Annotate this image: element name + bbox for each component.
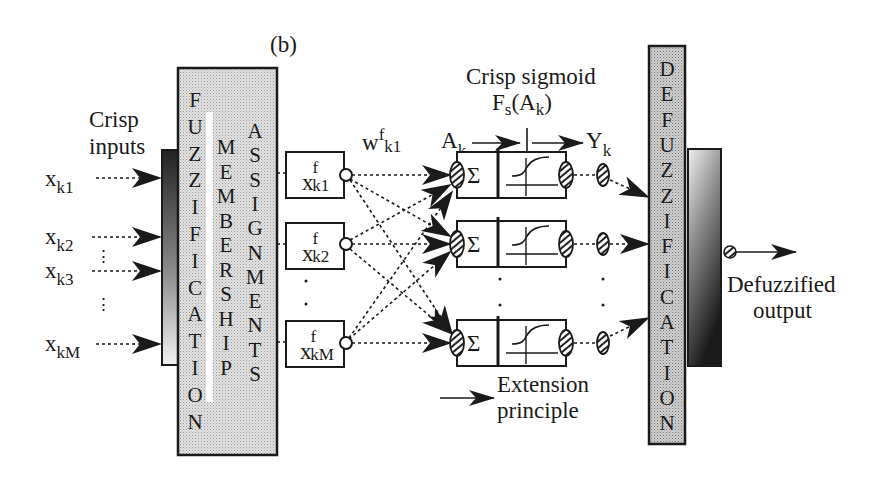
vertical-letter: E	[220, 160, 233, 184]
vertical-letter: M	[246, 265, 265, 289]
svg-text:xk2: xk2	[45, 224, 74, 255]
vertical-letter: C	[660, 285, 674, 309]
defuzz-input-arrow	[610, 318, 648, 336]
svg-text:xkM: xkM	[45, 331, 80, 362]
vertical-letter: A	[659, 310, 675, 334]
ellipsis-dot	[305, 303, 308, 306]
vertical-letter: C	[188, 276, 202, 300]
input-x-kM: xkM	[45, 331, 160, 362]
vertical-letter: N	[659, 411, 674, 435]
svg-text:inputs: inputs	[89, 134, 145, 159]
sum-symbol: Σ	[467, 232, 480, 257]
weighted-connections	[349, 175, 452, 343]
output-port	[724, 246, 736, 258]
ellipsis-dot	[602, 304, 605, 307]
ellipsis-dot	[499, 304, 502, 307]
fuzzy-node-k1: xfk1	[277, 152, 352, 198]
output-fuzzy-node	[597, 164, 609, 186]
svg-text:Extension: Extension	[497, 372, 589, 397]
ellipsis-dot	[499, 278, 502, 281]
sigmoid-title: Crisp sigmoid	[466, 64, 596, 89]
vertical-letter: I	[664, 259, 671, 283]
vertical-letter: N	[247, 313, 262, 337]
output-fuzzy-node	[597, 233, 609, 255]
vertical-letter: N	[247, 241, 262, 265]
vertical-letter: I	[192, 356, 199, 380]
vertical-letter: S	[220, 282, 232, 306]
vertical-letter: B	[219, 209, 233, 233]
vertical-letter: O	[659, 386, 674, 410]
vertical-letter: E	[661, 82, 674, 106]
vertical-letter: A	[247, 119, 263, 143]
vertical-letter: H	[218, 307, 233, 331]
vertical-letter: I	[664, 361, 671, 385]
vertical-letter: F	[661, 234, 673, 258]
input-x-k1: xk1	[45, 166, 160, 197]
vertical-letter: I	[192, 249, 199, 273]
vertical-letter: Z	[189, 142, 202, 166]
defuzzification-block: DEFUZZIFICATION	[649, 46, 721, 444]
vertical-letter: T	[661, 335, 674, 359]
vertical-letter: F	[189, 88, 201, 112]
panel-label: (b)	[270, 32, 297, 57]
vertical-letter: Z	[661, 184, 674, 208]
sigmoid-function-label: Fs(Ak)	[492, 90, 552, 119]
vertical-letter: U	[659, 133, 674, 157]
vertical-letter: I	[664, 209, 671, 233]
vertical-letter: O	[187, 383, 202, 407]
vertical-letter: N	[187, 410, 202, 434]
svg-text:xk3: xk3	[45, 258, 74, 289]
output-fuzzy-node	[597, 332, 609, 354]
neuron-input-port	[450, 231, 464, 257]
legend-extension-principle: Extension principle	[440, 372, 589, 423]
svg-text:Crisp: Crisp	[89, 107, 139, 132]
fuzzy-neural-network-diagram: (b) Crisp inputs xk1 xk2 ⋮ xk3 ⋮ xkM FUZ…	[0, 0, 888, 481]
neuron: Σ	[450, 148, 609, 199]
vertical-letter: S	[249, 168, 261, 192]
defuzzified-output: Defuzzified output	[724, 246, 836, 323]
svg-text:Defuzzified: Defuzzified	[727, 272, 836, 297]
neuron-output-port	[559, 231, 573, 257]
vertical-letter: T	[249, 338, 262, 362]
neuron-input-port	[450, 330, 464, 356]
svg-text:xk1: xk1	[45, 166, 74, 197]
vertical-letter: S	[249, 143, 261, 167]
fuzzy-node-k2: xfk2	[277, 223, 352, 269]
vertical-letter: I	[223, 331, 230, 355]
vertical-letter: Z	[189, 168, 202, 192]
vertical-letter: S	[249, 362, 261, 386]
vertical-letter: M	[217, 135, 236, 159]
svg-text:output: output	[753, 298, 812, 323]
vertical-letter: U	[187, 115, 202, 139]
vertical-letter: I	[252, 192, 259, 216]
vertical-letter: E	[249, 289, 262, 313]
crisp-inputs-title: Crisp inputs	[89, 107, 145, 159]
neuron-output-port	[559, 330, 573, 356]
vertical-letter: F	[189, 222, 201, 246]
vertical-letter: G	[247, 216, 262, 240]
vertical-letter: R	[219, 258, 233, 282]
ellipsis: ⋮	[95, 247, 112, 266]
output-label: Yk	[586, 128, 612, 160]
vertical-letter: P	[220, 356, 232, 380]
vertical-letter: M	[217, 184, 236, 208]
sum-symbol: Σ	[467, 331, 480, 356]
fuzzy-node-kM: xfkM	[277, 321, 352, 367]
neuron-layer: Σ Σ Σ	[450, 148, 648, 367]
vertical-letter: E	[220, 233, 233, 257]
ellipsis-dot	[305, 280, 308, 283]
ellipsis-dot	[602, 278, 605, 281]
vertical-letter: I	[192, 195, 199, 219]
vertical-letter: F	[661, 108, 673, 132]
weight-label: wfk1	[362, 125, 401, 156]
fuzzification-block: FUZZIFICATION MEMBERSHIP ASSIGNMENTS	[178, 68, 277, 455]
neuron-input-port	[450, 162, 464, 188]
neuron: Σ	[450, 217, 609, 268]
sum-symbol: Σ	[467, 163, 480, 188]
neuron-output-port	[559, 162, 573, 188]
ellipsis: ⋮	[95, 295, 112, 314]
vertical-letter: A	[187, 302, 203, 326]
vertical-letter: T	[189, 329, 202, 353]
svg-text:principle: principle	[497, 398, 579, 423]
output-gradient-bar	[688, 149, 721, 366]
